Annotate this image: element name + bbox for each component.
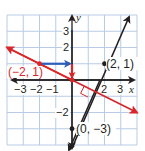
x-axis-label: x bbox=[128, 83, 134, 95]
x-tick-2: 2 bbox=[101, 83, 107, 95]
x-tick-neg2: −2 bbox=[30, 83, 43, 95]
y-tick-2: 2 bbox=[63, 41, 69, 53]
point-0-neg3 bbox=[70, 126, 75, 131]
y-tick-neg2: −2 bbox=[56, 106, 69, 118]
label-point-2-1: (2, 1) bbox=[106, 57, 134, 71]
y-tick-3: 3 bbox=[63, 25, 69, 37]
coordinate-plane: −3 −2 −1 2 3 x 3 2 −2 y (−2, 1) (2, 1) (… bbox=[0, 0, 145, 151]
x-tick-labels: −3 −2 −1 2 3 x bbox=[13, 83, 136, 95]
point-origin bbox=[70, 78, 75, 83]
y-axis-label: y bbox=[75, 11, 81, 23]
x-tick-neg1: −1 bbox=[46, 83, 59, 95]
label-point-neg2-1: (−2, 1) bbox=[8, 65, 43, 79]
black-line-bottom-arrow bbox=[69, 80, 100, 150]
x-tick-3: 3 bbox=[117, 83, 123, 95]
label-point-0-neg3: (0, −3) bbox=[76, 122, 111, 136]
x-tick-neg3: −3 bbox=[14, 83, 27, 95]
